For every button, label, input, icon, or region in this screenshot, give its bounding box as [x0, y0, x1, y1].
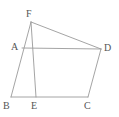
vertex-label-E: E: [31, 101, 37, 111]
vertex-label-C: C: [84, 101, 91, 111]
vertex-label-F: F: [26, 9, 32, 19]
figure-canvas: [0, 0, 119, 117]
segment-fd: [31, 22, 101, 49]
segment-fb: [11, 22, 31, 97]
vertex-label-B: B: [3, 101, 10, 111]
segment-dc: [88, 49, 101, 97]
vertex-label-D: D: [104, 43, 111, 53]
geometry-figure: F A D B E C: [0, 0, 119, 117]
segment-ad: [22, 48, 101, 49]
edge-group: [11, 22, 101, 97]
vertex-label-A: A: [11, 42, 18, 52]
segment-fe: [31, 22, 36, 97]
